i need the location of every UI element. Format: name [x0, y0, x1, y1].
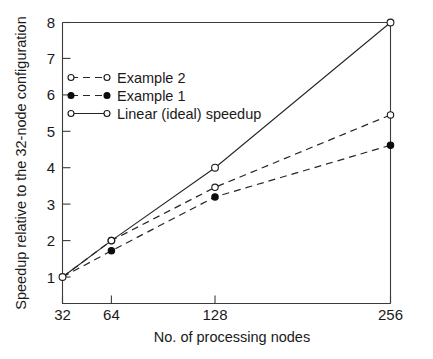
legend-marker-filled-circle-icon — [68, 93, 74, 99]
x-axis-tick-labels: 32 64 128 256 — [54, 306, 403, 323]
data-point — [108, 237, 114, 243]
legend-item-linear-ideal-speedup[interactable]: Linear (ideal) speedup — [68, 106, 261, 122]
legend-label-example-1: Example 1 — [117, 88, 186, 104]
data-point — [108, 248, 114, 254]
x-axis-title: No. of processing nodes — [154, 329, 310, 345]
y-tick-label-1: 1 — [47, 269, 55, 286]
series-markers-example-1 — [108, 142, 393, 254]
data-point — [387, 142, 393, 148]
speedup-line-chart: 1 2 3 4 5 6 7 8 32 64 128 256 No. of pro… — [0, 0, 433, 359]
legend-marker-open-circle-icon — [68, 111, 74, 117]
x-tick-label-256: 256 — [378, 306, 403, 323]
data-point — [387, 112, 393, 118]
x-tick-label-32: 32 — [54, 306, 71, 323]
y-tick-label-3: 3 — [47, 196, 55, 213]
y-tick-label-7: 7 — [47, 50, 55, 67]
x-tick-label-128: 128 — [202, 306, 227, 323]
y-axis-ticks — [63, 23, 71, 278]
legend-marker-open-circle-icon — [68, 75, 74, 81]
data-point — [212, 164, 219, 171]
chart-canvas: 1 2 3 4 5 6 7 8 32 64 128 256 No. of pro… — [0, 0, 433, 359]
legend-label-linear-ideal-speedup: Linear (ideal) speedup — [117, 106, 261, 122]
series-line-example-1 — [63, 145, 391, 277]
plot-frame — [63, 23, 391, 304]
legend-marker-open-circle-icon — [104, 75, 110, 81]
y-tick-label-4: 4 — [47, 159, 55, 176]
y-tick-label-5: 5 — [47, 123, 55, 140]
y-tick-label-6: 6 — [47, 86, 55, 103]
legend-marker-open-circle-icon — [104, 111, 110, 117]
data-point — [387, 19, 394, 26]
legend-marker-filled-circle-icon — [104, 93, 110, 99]
chart-legend: Example 2 Example 1 Linear (ideal) speed… — [68, 70, 261, 122]
y-tick-label-2: 2 — [47, 232, 55, 249]
y-axis-tick-labels: 1 2 3 4 5 6 7 8 — [47, 14, 55, 286]
x-axis-ticks — [63, 296, 391, 304]
y-tick-label-8: 8 — [47, 14, 55, 31]
y-axis-title: Speedup relative to the 32-node configur… — [13, 16, 29, 309]
data-point — [59, 274, 66, 281]
x-tick-label-64: 64 — [103, 306, 120, 323]
data-point — [212, 184, 218, 190]
legend-item-example-1[interactable]: Example 1 — [68, 88, 186, 104]
data-point — [212, 194, 218, 200]
legend-item-example-2[interactable]: Example 2 — [68, 70, 186, 86]
legend-label-example-2: Example 2 — [117, 70, 186, 86]
